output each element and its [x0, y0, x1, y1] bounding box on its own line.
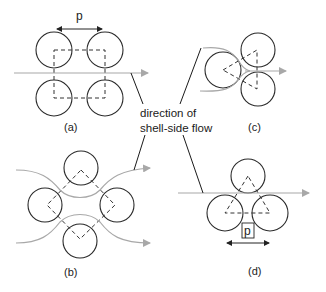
- panel-label-d: (d): [248, 265, 261, 277]
- tube-circle: [64, 151, 98, 185]
- leader-line-c: [180, 48, 201, 104]
- pitch-square-dashed: [54, 50, 105, 98]
- panel-label-a: (a): [64, 121, 77, 133]
- tube-circle: [63, 224, 97, 258]
- pitch-label-a: p: [76, 9, 83, 23]
- leader-line-d: [183, 135, 203, 193]
- leader-line-a: [131, 73, 143, 104]
- tube-circle: [28, 188, 62, 222]
- panel-b: [16, 151, 150, 258]
- pitch-label-d: p: [244, 224, 251, 238]
- pitch-triangle-dashed: [223, 50, 257, 89]
- flow-direction-line2: shell-side flow: [140, 121, 212, 136]
- tube-circle: [100, 188, 134, 222]
- flow-line-lower: [16, 215, 150, 244]
- leader-line-b: [134, 135, 145, 170]
- panel-a: [14, 29, 148, 116]
- tube-circle: [241, 33, 275, 67]
- flow-direction-line1: direction of: [140, 106, 212, 121]
- tube-layout-diagram: p p direction of shell-side flow (a) (b)…: [0, 0, 326, 292]
- panel-c: [200, 33, 286, 106]
- panel-label-b: (b): [64, 266, 77, 278]
- tube-circle: [252, 195, 288, 231]
- pitch-diamond-dashed: [47, 170, 115, 239]
- flow-line-upper: [203, 48, 250, 71]
- tube-circle: [241, 72, 275, 106]
- flow-direction-label: direction of shell-side flow: [140, 106, 212, 136]
- panel-label-c: (c): [248, 121, 261, 133]
